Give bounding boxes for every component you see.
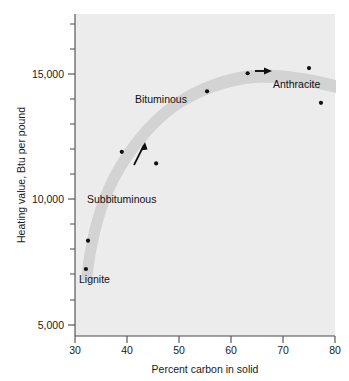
y-tick-label-15000: 15,000 — [32, 68, 64, 80]
annotation-anthracite: Anthracite — [273, 78, 320, 90]
x-axis-major-ticks — [75, 336, 335, 343]
x-axis-title: Percent carbon in solid — [152, 363, 259, 375]
data-point — [154, 161, 158, 165]
data-point — [205, 89, 209, 93]
scatter-plot-svg: 15,000 10,000 5,000 Heating value, Btu p… — [0, 0, 349, 381]
annotation-lignite: Lignite — [79, 273, 110, 285]
y-axis-major-ticks — [68, 74, 75, 325]
data-point — [86, 239, 90, 243]
y-axis-title: Heating value, Btu per pound — [15, 107, 27, 243]
data-point — [120, 150, 124, 154]
x-tick-label-30: 30 — [69, 344, 81, 356]
x-tick-label-60: 60 — [225, 344, 237, 356]
y-tick-label-10000: 10,000 — [32, 193, 64, 205]
annotation-bituminous: Bituminous — [135, 93, 187, 105]
data-point — [307, 66, 311, 70]
x-tick-label-40: 40 — [121, 344, 133, 356]
chart-figure: 15,000 10,000 5,000 Heating value, Btu p… — [0, 0, 349, 381]
data-point — [246, 71, 250, 75]
data-point — [319, 101, 323, 105]
y-tick-label-5000: 5,000 — [38, 319, 64, 331]
annotation-subbituminous: Subbituminous — [87, 193, 156, 205]
x-tick-label-70: 70 — [277, 344, 289, 356]
x-tick-label-80: 80 — [329, 344, 341, 356]
x-tick-label-50: 50 — [173, 344, 185, 356]
y-axis-minor-ticks — [70, 24, 75, 300]
data-point — [84, 267, 88, 271]
